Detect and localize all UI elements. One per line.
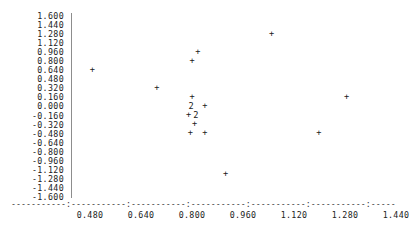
x-tick-label: 0.800	[179, 209, 206, 221]
data-point: +	[316, 130, 321, 139]
data-point: +	[186, 112, 191, 121]
y-axis: 1.6001.4401.2801.1200.9600.8000.6400.480…	[0, 12, 68, 202]
x-axis-line: -----------:-----------:-----------:----…	[11, 199, 396, 209]
x-tick-label: 0.640	[128, 209, 155, 221]
x-tick-label: 1.120	[281, 209, 308, 221]
x-axis: 0.4800.6400.8000.9601.1201.2801.440	[0, 209, 404, 221]
plot-area: +++++2++2+++++++	[71, 12, 404, 200]
data-point: +	[202, 102, 207, 111]
data-point: +	[344, 93, 349, 102]
data-point: +	[269, 30, 274, 39]
data-point: +	[195, 48, 200, 57]
x-tick-label: 0.480	[77, 209, 104, 221]
x-tick-label: 0.960	[230, 209, 257, 221]
x-tick-label: 1.280	[332, 209, 359, 221]
data-point: +	[202, 130, 207, 139]
data-point: +	[223, 170, 228, 179]
data-point: +	[188, 130, 193, 139]
data-point: +	[189, 57, 194, 66]
x-tick-label: 1.440	[383, 209, 409, 221]
data-point: +	[154, 84, 159, 93]
data-point: +	[90, 66, 95, 75]
